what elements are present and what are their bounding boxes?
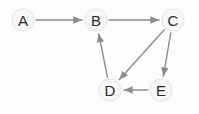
node-label-e: E: [156, 82, 166, 99]
edges-layer: [35, 20, 171, 90]
edge-c-to-e: [163, 32, 171, 76]
node-a[interactable]: A: [10, 7, 35, 32]
edge-c-to-d: [119, 29, 165, 80]
node-label-b: B: [91, 12, 101, 29]
directed-graph: ABCDE: [0, 0, 199, 114]
node-label-c: C: [168, 12, 179, 29]
diagram-canvas: ABCDE: [0, 0, 199, 114]
edge-d-to-b: [99, 34, 108, 79]
node-d[interactable]: D: [97, 77, 122, 102]
node-b[interactable]: B: [83, 7, 108, 32]
node-c[interactable]: C: [160, 7, 185, 32]
node-e[interactable]: E: [148, 77, 173, 102]
nodes-layer: ABCDE: [10, 7, 185, 102]
node-label-a: A: [18, 12, 28, 29]
node-label-d: D: [105, 82, 116, 99]
